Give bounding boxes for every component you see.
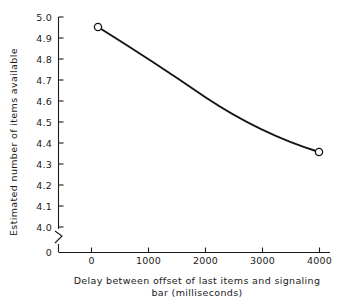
x-tick-label-2000: 2000	[193, 255, 218, 266]
chart-figure: 5.0 4.9 4.8 4.7 4.6 4.5 4.4 4.3 4.2 4.1 …	[0, 0, 363, 303]
y-tick-label-4.3: 4.3	[36, 159, 52, 170]
x-tick-label-0: 0	[88, 255, 94, 266]
x-tickmarks	[92, 248, 320, 253]
y-tick-label-4.4: 4.4	[36, 138, 52, 149]
data-point-marker	[315, 148, 322, 155]
x-tick-label-4000: 4000	[307, 255, 332, 266]
y-tick-label-4.6: 4.6	[36, 96, 52, 107]
line-chart-canvas: 5.0 4.9 4.8 4.7 4.6 4.5 4.4 4.3 4.2 4.1 …	[0, 0, 363, 303]
x-tick-label-1000: 1000	[136, 255, 161, 266]
axis-break-icon	[55, 231, 62, 243]
y-tick-label-4.7: 4.7	[36, 75, 52, 86]
data-point-marker	[94, 23, 101, 30]
y-tick-label-5.0: 5.0	[36, 12, 52, 23]
x-axis-title-line2: bar (milliseconds)	[151, 287, 242, 298]
y-tickmarks	[59, 17, 64, 227]
y-tick-label-4.2: 4.2	[36, 180, 52, 191]
y-tick-label-4.9: 4.9	[36, 33, 52, 44]
x-tick-label-3000: 3000	[250, 255, 275, 266]
y-axis-title: Estimated number of items available	[8, 48, 19, 236]
y-tick-label-4.8: 4.8	[36, 54, 52, 65]
y-tick-label-4.0: 4.0	[36, 222, 52, 233]
y-tick-label-4.1: 4.1	[36, 201, 52, 212]
x-axis-title-line1: Delay between offset of last items and s…	[74, 275, 321, 286]
y-tick-label-4.5: 4.5	[36, 117, 52, 128]
data-curve	[98, 27, 319, 152]
y-origin-label: 0	[46, 247, 52, 258]
